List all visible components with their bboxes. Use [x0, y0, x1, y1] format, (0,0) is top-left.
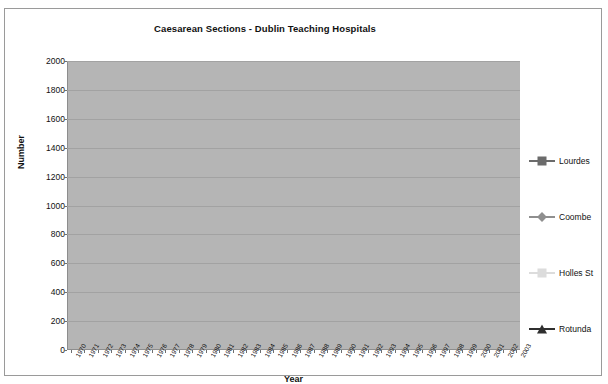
y-axis-title: Number	[16, 92, 26, 212]
gridline	[67, 234, 520, 235]
gridline	[67, 263, 520, 264]
legend-line	[529, 160, 555, 162]
x-axis-tick-mark	[327, 350, 328, 353]
x-axis-tick-mark	[503, 350, 504, 353]
y-axis-tick-label: 2000	[21, 56, 65, 66]
gridline	[67, 119, 520, 120]
y-axis-tick-label: 800	[21, 229, 65, 239]
x-axis-tick-mark	[516, 350, 517, 353]
x-axis-tick-mark	[84, 350, 85, 353]
x-axis-tick-mark	[287, 350, 288, 353]
y-axis-tick-label: 200	[21, 316, 65, 326]
legend-line	[529, 216, 555, 218]
x-axis-tick-mark	[368, 350, 369, 353]
x-axis-tick-mark	[206, 350, 207, 353]
gridline	[67, 61, 520, 62]
gridline	[67, 206, 520, 207]
y-axis-tick-mark	[64, 61, 67, 62]
x-axis-tick-mark	[98, 350, 99, 353]
y-axis-tick-mark	[64, 119, 67, 120]
x-axis-tick-mark	[476, 350, 477, 353]
x-axis-tick-mark	[165, 350, 166, 353]
legend-item-lourdes[interactable]: Lourdes	[529, 155, 590, 167]
y-axis-tick-mark	[64, 292, 67, 293]
y-axis-tick-mark	[64, 263, 67, 264]
y-axis-tick-label: 1200	[21, 172, 65, 182]
x-axis-tick-mark	[111, 350, 112, 353]
gridline	[67, 177, 520, 178]
x-axis-tick-mark	[192, 350, 193, 353]
chart-frame: Caesarean Sections - Dublin Teaching Hos…	[4, 8, 602, 376]
y-axis-tick-mark	[64, 90, 67, 91]
legend-label: Holles St	[559, 268, 593, 278]
x-axis-tick-mark	[408, 350, 409, 353]
legend-marker-diamond-icon	[537, 212, 547, 222]
x-axis-tick-mark	[71, 350, 72, 353]
x-axis-tick-mark	[462, 350, 463, 353]
gridline	[67, 90, 520, 91]
y-axis-tick-mark	[64, 148, 67, 149]
legend-item-holles-st[interactable]: Holles St	[529, 267, 593, 279]
plot-area: 0200400600800100012001400160018002000 19…	[67, 61, 520, 350]
y-axis-tick-label: 1000	[21, 201, 65, 211]
y-axis-tick-mark	[64, 321, 67, 322]
x-axis-tick-mark	[435, 350, 436, 353]
legend-item-coombe[interactable]: Coombe	[529, 211, 591, 223]
y-axis-tick-label: 0	[21, 345, 65, 355]
legend-item-rotunda[interactable]: Rotunda	[529, 323, 591, 335]
y-axis-tick-mark	[64, 350, 67, 351]
x-axis-tick-mark	[314, 350, 315, 353]
x-axis-tick-mark	[449, 350, 450, 353]
legend-line	[529, 272, 555, 274]
x-axis-tick-mark	[395, 350, 396, 353]
x-axis-tick-mark	[179, 350, 180, 353]
x-axis-tick-mark	[273, 350, 274, 353]
legend-marker-square-icon	[538, 269, 547, 278]
legend-marker-square-icon	[538, 157, 547, 166]
y-axis-tick-label: 1600	[21, 114, 65, 124]
y-axis-tick-mark	[64, 177, 67, 178]
x-axis-title: Year	[67, 374, 520, 384]
x-axis-tick-mark	[219, 350, 220, 353]
x-axis-tick-mark	[300, 350, 301, 353]
y-axis-tick-label: 400	[21, 287, 65, 297]
y-axis-tick-label: 1400	[21, 143, 65, 153]
y-axis-tick-mark	[64, 206, 67, 207]
chart-title: Caesarean Sections - Dublin Teaching Hos…	[5, 23, 525, 34]
gridline	[67, 292, 520, 293]
legend-line	[529, 328, 555, 330]
x-axis-tick-mark	[260, 350, 261, 353]
x-axis-tick-mark	[138, 350, 139, 353]
legend-label: Lourdes	[559, 156, 590, 166]
x-axis-tick-mark	[381, 350, 382, 353]
x-axis-tick-label: 2003	[519, 342, 532, 358]
x-axis-tick-mark	[422, 350, 423, 353]
x-axis-tick-mark	[233, 350, 234, 353]
gridline	[67, 321, 520, 322]
x-axis-tick-mark	[354, 350, 355, 353]
y-axis-tick-label: 1800	[21, 85, 65, 95]
legend-label: Rotunda	[559, 324, 591, 334]
legend-label: Coombe	[559, 212, 591, 222]
x-axis-tick-mark	[246, 350, 247, 353]
x-axis-tick-mark	[489, 350, 490, 353]
x-axis-tick-mark	[152, 350, 153, 353]
x-axis-tick-mark	[341, 350, 342, 353]
y-axis-tick-label: 600	[21, 258, 65, 268]
gridline	[67, 148, 520, 149]
y-axis-tick-mark	[64, 234, 67, 235]
legend-marker-triangle-icon	[537, 325, 547, 334]
x-axis-tick-mark	[125, 350, 126, 353]
